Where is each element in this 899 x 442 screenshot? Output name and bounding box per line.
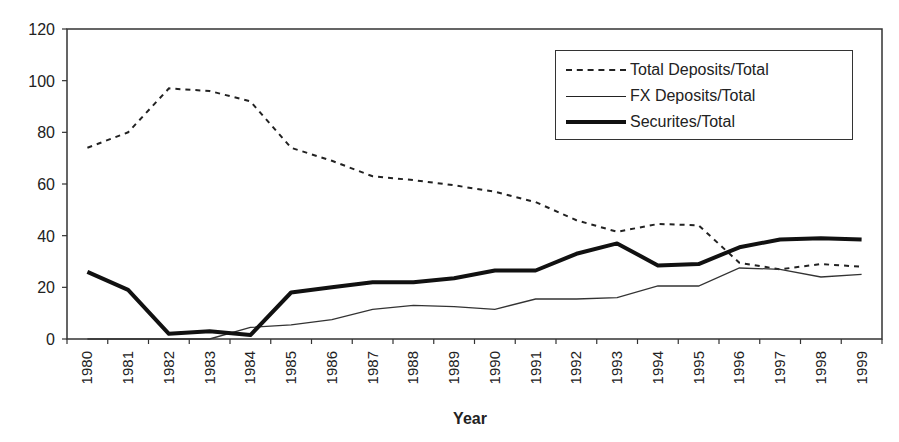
x-tick-label: 1995 — [690, 351, 707, 384]
x-tick-label: 1990 — [486, 351, 503, 384]
x-axis-title: Year — [0, 410, 899, 428]
x-tick-label: 1986 — [323, 351, 340, 384]
x-tick-label: 1999 — [853, 351, 870, 384]
y-tick-label: 20 — [37, 279, 55, 296]
legend-item-total-deposits: Total Deposits/Total — [566, 57, 769, 83]
legend-label: Total Deposits/Total — [630, 61, 769, 79]
y-tick-label: 60 — [37, 176, 55, 193]
chart-legend: Total Deposits/Total FX Deposits/Total S… — [555, 50, 853, 140]
y-tick-label: 40 — [37, 228, 55, 245]
x-tick-label: 1991 — [527, 351, 544, 384]
x-tick-label: 1996 — [730, 351, 747, 384]
x-tick-label: 1993 — [608, 351, 625, 384]
series-line-thin — [87, 268, 861, 339]
x-tick-label: 1981 — [119, 351, 136, 384]
thin-line-swatch-icon — [566, 96, 626, 97]
x-tick-label: 1987 — [364, 351, 381, 384]
x-tick-label: 1992 — [567, 351, 584, 384]
legend-label: FX Deposits/Total — [630, 87, 755, 105]
dashed-line-swatch-icon — [566, 69, 626, 71]
y-tick-label: 80 — [37, 124, 55, 141]
x-tick-label: 1989 — [445, 351, 462, 384]
thick-line-swatch-icon — [566, 120, 626, 124]
y-tick-label: 100 — [28, 73, 55, 90]
y-tick-label: 0 — [46, 331, 55, 348]
x-tick-label: 1983 — [201, 351, 218, 384]
series-line-thick — [87, 238, 861, 335]
x-tick-label: 1997 — [771, 351, 788, 384]
legend-item-fx-deposits: FX Deposits/Total — [566, 83, 755, 109]
x-tick-label: 1985 — [282, 351, 299, 384]
x-tick-label: 1982 — [160, 351, 177, 384]
x-tick-label: 1998 — [812, 351, 829, 384]
x-tick-label: 1994 — [649, 351, 666, 384]
legend-item-securities: Securites/Total — [566, 109, 735, 135]
x-tick-label: 1984 — [241, 351, 258, 384]
x-tick-label: 1980 — [78, 351, 95, 384]
legend-label: Securites/Total — [630, 113, 735, 131]
x-tick-label: 1988 — [404, 351, 421, 384]
y-tick-label: 120 — [28, 21, 55, 38]
